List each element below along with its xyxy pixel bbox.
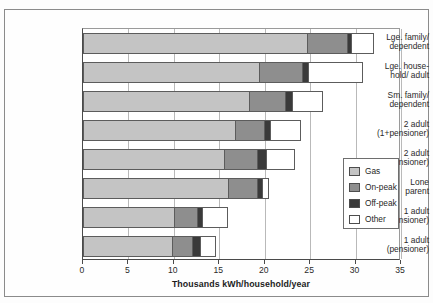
- bar-row: [83, 178, 269, 199]
- bar-segment-on-peak: [172, 236, 193, 257]
- x-tick-30: [355, 260, 356, 264]
- legend-item: On-peak: [349, 179, 398, 195]
- x-tick-label: 30: [350, 265, 360, 275]
- x-axis-title: Thousands kWh/household/year: [82, 279, 400, 289]
- bar-segment-other: [266, 149, 295, 170]
- bar-segment-gas: [83, 236, 173, 257]
- chart-legend: GasOn-peakOff-peakOther: [343, 158, 399, 229]
- bar-segment-other: [262, 178, 269, 199]
- bar-segment-on-peak: [228, 178, 258, 199]
- bar-row: [83, 120, 301, 141]
- category-label-line: dependent: [351, 100, 429, 110]
- bar-segment-on-peak: [224, 149, 259, 170]
- x-tick-35: [400, 260, 401, 264]
- category-label-line: dependent: [351, 42, 429, 52]
- x-tick-label: 25: [304, 265, 314, 275]
- x-tick-0: [82, 260, 83, 264]
- x-tick-label: 15: [214, 265, 224, 275]
- category-label-line: hold/ adult: [351, 71, 429, 81]
- legend-label: Other: [365, 214, 386, 224]
- category-label: Lge. family/dependent: [351, 33, 433, 52]
- bar-segment-gas: [83, 91, 250, 112]
- category-label: 1 adult(pensioner): [351, 236, 433, 255]
- x-tick-15: [218, 260, 219, 264]
- bar-row: [83, 236, 216, 257]
- legend-label: Gas: [365, 166, 380, 176]
- chart-figure: Lge. family/dependentLge. house-hold/ ad…: [0, 0, 433, 303]
- bar-segment-other: [292, 91, 324, 112]
- x-tick-5: [127, 260, 128, 264]
- bar-segment-other: [200, 236, 216, 257]
- legend-swatch: [349, 199, 360, 208]
- bar-segment-other: [202, 207, 228, 228]
- bar-row: [83, 207, 228, 228]
- legend-swatch: [349, 183, 360, 192]
- category-label: Lge. house-hold/ adult: [351, 62, 433, 81]
- x-tick-25: [309, 260, 310, 264]
- legend-item: Off-peak: [349, 195, 398, 211]
- legend-swatch: [349, 167, 360, 176]
- legend-label: On-peak: [365, 182, 397, 192]
- bar-segment-gas: [83, 120, 236, 141]
- x-tick-10: [173, 260, 174, 264]
- x-axis: 05101520253035: [82, 260, 400, 278]
- bar-row: [83, 33, 374, 54]
- category-label-line: (pensioner): [351, 245, 429, 255]
- category-label-line: (1+pensioner): [351, 129, 429, 139]
- category-label: Sm. family/dependent: [351, 91, 433, 110]
- x-tick-20: [264, 260, 265, 264]
- x-tick-label: 10: [168, 265, 178, 275]
- legend-label: Off-peak: [365, 198, 397, 208]
- bar-segment-gas: [83, 33, 308, 54]
- legend-item: Other: [349, 211, 398, 227]
- bar-row: [83, 91, 323, 112]
- bar-segment-gas: [83, 149, 225, 170]
- bar-segment-on-peak: [259, 62, 303, 83]
- x-tick-label: 5: [125, 265, 130, 275]
- category-label: 2 adult(1+pensioner): [351, 120, 433, 139]
- x-tick-label: 35: [395, 265, 405, 275]
- bar-segment-on-peak: [249, 91, 286, 112]
- bar-segment-on-peak: [235, 120, 265, 141]
- bar-segment-other: [270, 120, 301, 141]
- bar-row: [83, 62, 363, 83]
- x-tick-label: 20: [259, 265, 269, 275]
- x-tick-label: 0: [80, 265, 85, 275]
- bar-segment-on-peak: [307, 33, 348, 54]
- bar-segment-gas: [83, 62, 260, 83]
- bar-segment-gas: [83, 178, 229, 199]
- legend-item: Gas: [349, 163, 398, 179]
- bar-row: [83, 149, 295, 170]
- bar-segment-gas: [83, 207, 175, 228]
- bar-segment-on-peak: [174, 207, 199, 228]
- legend-swatch: [349, 215, 360, 224]
